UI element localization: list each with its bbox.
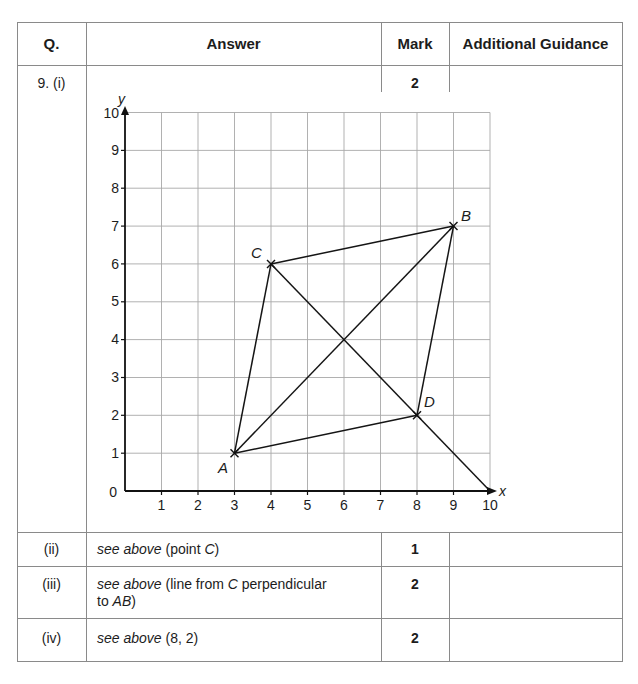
table-bottom-border (17, 661, 623, 662)
row-ii-answer: see above (point C) (97, 541, 377, 558)
segment-CB (271, 226, 454, 264)
svg-text:1: 1 (158, 497, 166, 513)
segment-AD (235, 415, 418, 453)
svg-text:9: 9 (111, 142, 119, 158)
row-iv-answer: see above (8, 2) (97, 630, 377, 647)
svg-text:6: 6 (111, 256, 119, 272)
svg-text:5: 5 (304, 497, 312, 513)
point-B-label: B (461, 207, 471, 224)
svg-text:3: 3 (231, 497, 239, 513)
y-tick-labels: 0 1 2 3 4 5 6 7 8 9 10 (103, 105, 119, 500)
y-axis-label: y (117, 91, 126, 107)
row-iii-q: (iii) (17, 576, 86, 593)
svg-text:7: 7 (111, 218, 119, 234)
svg-text:2: 2 (194, 497, 202, 513)
row-iii-bottom-border (17, 618, 623, 619)
x-axis-label: x (498, 483, 507, 499)
y-axis-arrow-icon (121, 106, 129, 115)
row-iv-mark: 2 (381, 630, 449, 647)
svg-text:4: 4 (111, 331, 119, 347)
x-axis-arrow-icon (487, 487, 497, 495)
svg-text:8: 8 (111, 180, 119, 196)
row-ii-mark: 1 (381, 541, 449, 558)
svg-text:8: 8 (413, 497, 421, 513)
svg-text:1: 1 (111, 445, 119, 461)
svg-text:3: 3 (111, 369, 119, 385)
row-ii-q: (ii) (17, 541, 86, 558)
segment-AC (235, 264, 272, 453)
coordinate-grid-chart: 0 1 2 3 4 5 6 7 8 9 10 1 2 3 4 5 6 7 8 9… (0, 0, 638, 540)
svg-text:6: 6 (340, 497, 348, 513)
point-C-label: C (251, 244, 262, 261)
svg-text:10: 10 (103, 105, 119, 121)
row-iv-q: (iv) (17, 630, 86, 647)
svg-text:2: 2 (111, 407, 119, 423)
col-mark-divider-bottom (449, 532, 450, 662)
svg-text:7: 7 (377, 497, 385, 513)
svg-text:0: 0 (109, 484, 117, 500)
segment-DB (417, 226, 454, 415)
row-iii-answer: see above (line from C perpendicular to … (97, 576, 377, 610)
point-A-label: A (217, 459, 228, 476)
row-iii-mark: 2 (381, 576, 449, 593)
svg-text:9: 9 (450, 497, 458, 513)
svg-text:4: 4 (267, 497, 275, 513)
point-D-label: D (424, 393, 435, 410)
x-tick-labels: 1 2 3 4 5 6 7 8 9 10 (158, 497, 498, 513)
svg-text:10: 10 (482, 497, 498, 513)
svg-text:5: 5 (111, 293, 119, 309)
row-ii-bottom-border (17, 566, 623, 567)
